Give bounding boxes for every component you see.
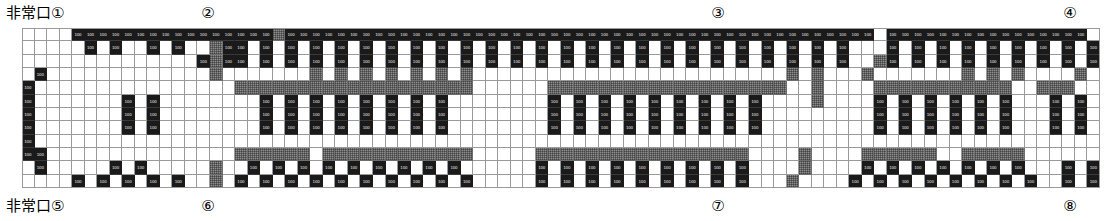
cell-open[interactable] xyxy=(273,175,286,188)
cell-open[interactable] xyxy=(110,148,123,161)
cell-open[interactable] xyxy=(762,161,775,174)
cell-open[interactable] xyxy=(298,95,311,108)
cell-aisle[interactable] xyxy=(624,81,637,94)
cell-booth[interactable]: 100 xyxy=(448,28,461,41)
cell-open[interactable] xyxy=(448,68,461,81)
cell-booth[interactable]: 100 xyxy=(285,175,298,188)
cell-aisle[interactable] xyxy=(987,81,1000,94)
cell-booth[interactable]: 100 xyxy=(1037,28,1050,41)
cell-open[interactable] xyxy=(498,121,511,134)
cell-open[interactable] xyxy=(925,68,938,81)
cell-open[interactable] xyxy=(298,121,311,134)
cell-booth[interactable]: 100 xyxy=(335,121,348,134)
cell-open[interactable] xyxy=(599,41,612,54)
cell-open[interactable] xyxy=(1087,81,1100,94)
cell-open[interactable] xyxy=(862,81,875,94)
cell-open[interactable] xyxy=(799,55,812,68)
cell-aisle[interactable] xyxy=(335,81,348,94)
cell-booth[interactable]: 100 xyxy=(335,55,348,68)
cell-open[interactable] xyxy=(22,28,35,41)
cell-aisle[interactable] xyxy=(398,148,411,161)
cell-open[interactable] xyxy=(1075,55,1088,68)
cell-booth[interactable]: 100 xyxy=(899,95,912,108)
cell-booth[interactable]: 100 xyxy=(310,41,323,54)
cell-open[interactable] xyxy=(849,95,862,108)
cell-open[interactable] xyxy=(1087,108,1100,121)
cell-aisle[interactable] xyxy=(624,148,637,161)
cell-open[interactable] xyxy=(937,121,950,134)
cell-open[interactable] xyxy=(812,148,825,161)
cell-booth[interactable]: 100 xyxy=(586,28,599,41)
cell-open[interactable] xyxy=(724,175,737,188)
cell-aisle[interactable] xyxy=(461,81,474,94)
cell-booth[interactable]: 100 xyxy=(586,55,599,68)
cell-open[interactable] xyxy=(824,148,837,161)
cell-booth[interactable]: 100 xyxy=(1062,175,1075,188)
cell-open[interactable] xyxy=(172,95,185,108)
cell-open[interactable] xyxy=(649,135,662,148)
cell-open[interactable] xyxy=(335,135,348,148)
cell-open[interactable] xyxy=(348,121,361,134)
cell-open[interactable] xyxy=(950,41,963,54)
cell-booth[interactable]: 100 xyxy=(248,161,261,174)
cell-open[interactable] xyxy=(1037,175,1050,188)
cell-booth[interactable]: 100 xyxy=(749,121,762,134)
cell-open[interactable] xyxy=(110,55,123,68)
cell-booth[interactable]: 100 xyxy=(950,175,963,188)
cell-open[interactable] xyxy=(523,135,536,148)
cell-booth[interactable]: 100 xyxy=(548,95,561,108)
cell-booth[interactable]: 100 xyxy=(511,28,524,41)
cell-open[interactable] xyxy=(72,121,85,134)
cell-booth[interactable]: 100 xyxy=(937,41,950,54)
cell-booth[interactable]: 100 xyxy=(937,28,950,41)
cell-open[interactable] xyxy=(523,55,536,68)
cell-open[interactable] xyxy=(661,121,674,134)
cell-open[interactable] xyxy=(674,175,687,188)
cell-open[interactable] xyxy=(197,68,210,81)
cell-open[interactable] xyxy=(423,41,436,54)
cell-booth[interactable]: 100 xyxy=(298,28,311,41)
cell-booth[interactable]: 100 xyxy=(511,41,524,54)
cell-open[interactable] xyxy=(1062,95,1075,108)
cell-booth[interactable]: 100 xyxy=(787,41,800,54)
cell-open[interactable] xyxy=(185,95,198,108)
cell-open[interactable] xyxy=(950,161,963,174)
cell-open[interactable] xyxy=(536,81,549,94)
cell-booth[interactable]: 100 xyxy=(260,95,273,108)
cell-open[interactable] xyxy=(599,55,612,68)
cell-booth[interactable]: 100 xyxy=(22,121,35,134)
cell-open[interactable] xyxy=(912,108,925,121)
cell-open[interactable] xyxy=(172,121,185,134)
cell-open[interactable] xyxy=(799,41,812,54)
cell-booth[interactable]: 100 xyxy=(235,175,248,188)
cell-booth[interactable]: 100 xyxy=(436,55,449,68)
cell-open[interactable] xyxy=(636,108,649,121)
cell-booth[interactable]: 100 xyxy=(674,121,687,134)
cell-open[interactable] xyxy=(72,68,85,81)
cell-open[interactable] xyxy=(223,81,236,94)
cell-open[interactable] xyxy=(586,68,599,81)
cell-open[interactable] xyxy=(348,95,361,108)
cell-booth[interactable]: 100 xyxy=(950,108,963,121)
cell-booth[interactable]: 100 xyxy=(411,55,424,68)
cell-open[interactable] xyxy=(548,68,561,81)
cell-open[interactable] xyxy=(122,81,135,94)
cell-booth[interactable]: 100 xyxy=(461,55,474,68)
cell-open[interactable] xyxy=(1062,68,1075,81)
cell-open[interactable] xyxy=(586,135,599,148)
cell-open[interactable] xyxy=(85,55,98,68)
cell-open[interactable] xyxy=(35,28,48,41)
cell-aisle[interactable] xyxy=(812,81,825,94)
cell-aisle[interactable] xyxy=(574,148,587,161)
cell-booth[interactable]: 100 xyxy=(285,108,298,121)
cell-booth[interactable]: 100 xyxy=(461,41,474,54)
cell-aisle[interactable] xyxy=(210,175,223,188)
cell-booth[interactable]: 100 xyxy=(925,108,938,121)
cell-booth[interactable]: 100 xyxy=(574,28,587,41)
cell-open[interactable] xyxy=(548,41,561,54)
cell-aisle[interactable] xyxy=(273,81,286,94)
cell-open[interactable] xyxy=(72,41,85,54)
cell-open[interactable] xyxy=(674,135,687,148)
cell-open[interactable] xyxy=(511,81,524,94)
cell-open[interactable] xyxy=(862,55,875,68)
